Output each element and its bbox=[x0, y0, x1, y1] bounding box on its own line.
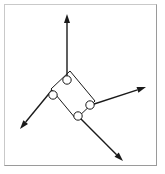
joint-top bbox=[63, 76, 71, 84]
vector-up-arrowhead bbox=[64, 14, 70, 23]
vector-upper-right bbox=[88, 87, 146, 106]
vector-lower-left bbox=[20, 90, 52, 129]
vector-diagram-canvas bbox=[0, 0, 165, 174]
joint-bottom bbox=[74, 112, 82, 120]
vector-lower-left-shaft bbox=[26, 90, 52, 122]
figure-root bbox=[0, 0, 165, 174]
joint-right bbox=[86, 101, 94, 109]
vector-lower-right bbox=[79, 117, 123, 161]
vector-arrows-group bbox=[20, 14, 146, 161]
vector-lower-right-shaft bbox=[79, 117, 117, 155]
joint-left bbox=[49, 91, 57, 99]
vector-upper-right-arrowhead bbox=[137, 87, 146, 93]
vector-up bbox=[64, 14, 70, 78]
vector-upper-right-shaft bbox=[88, 90, 137, 106]
